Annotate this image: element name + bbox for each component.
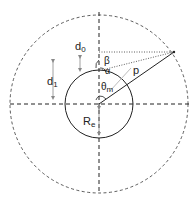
label-re: Re (83, 115, 96, 129)
point-p (173, 51, 175, 53)
label-p: p (133, 64, 139, 76)
label-beta: β (104, 55, 110, 66)
radius-line-p (99, 52, 174, 104)
label-theta-m: θm (101, 81, 114, 94)
label-d1: d1 (47, 75, 58, 89)
label-alpha: α (105, 66, 110, 76)
geometry-diagram: d0 d1 β α p θm Re (0, 0, 196, 202)
theta-arc (99, 96, 106, 99)
label-d0: d0 (75, 40, 86, 54)
